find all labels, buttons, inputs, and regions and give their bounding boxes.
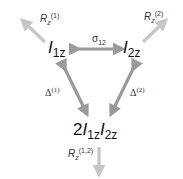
- node-i2z: I2z: [123, 38, 140, 60]
- r1-sub: z: [47, 19, 51, 26]
- i1z-sub: 1z: [53, 46, 66, 60]
- node-product: 2I1zI2z: [73, 120, 117, 142]
- node-i1z: I1z: [48, 38, 65, 60]
- product-b-sub: 2z: [105, 128, 118, 142]
- label-sigma12: σ12: [92, 33, 106, 46]
- r12-sub: z: [75, 154, 79, 161]
- r12-sup: (1,2): [79, 147, 93, 154]
- r2-sub: z: [151, 17, 155, 24]
- product-a-sub: 1z: [87, 128, 100, 142]
- label-r12: Rz(1,2): [68, 147, 93, 161]
- label-delta2: Δ(2): [130, 86, 145, 98]
- i2z-sub: 2z: [128, 46, 141, 60]
- r2-arrow: [143, 22, 164, 42]
- label-r1: Rz(1): [40, 12, 59, 26]
- delta1-sup: (1): [51, 86, 59, 94]
- delta1-arrow: [64, 67, 86, 112]
- r1-sup: (1): [51, 12, 60, 19]
- r2-sup: (2): [155, 10, 164, 17]
- sigma-sub: 12: [98, 39, 106, 46]
- delta2-sup: (2): [136, 86, 144, 94]
- label-delta1: Δ(1): [45, 86, 60, 98]
- label-r2: Rz(2): [144, 10, 163, 24]
